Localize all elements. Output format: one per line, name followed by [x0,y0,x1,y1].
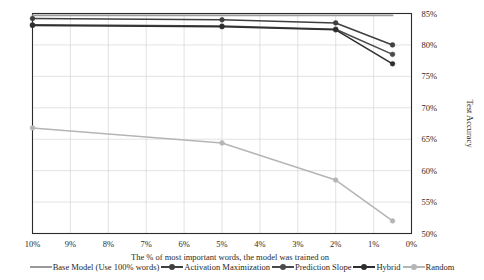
x-tick-labels: 10%9%8%7%6%5%4%3%2%1%0% [25,239,417,249]
x-tick-label: 2% [330,239,341,249]
y-tick-label: 85% [422,9,438,19]
data-point [333,27,338,32]
line-chart-svg: 10%9%8%7%6%5%4%3%2%1%0% 50%55%60%65%70%7… [0,0,484,280]
legend-label: Hybrid [376,262,400,272]
x-tick-label: 6% [178,239,189,249]
x-tick-label: 9% [65,239,76,249]
x-tick-label: 7% [141,239,152,249]
legend-item-1[interactable]: Base Model (Use 100% words) [30,262,160,272]
legend-label: Prediction Slope [295,262,351,272]
data-point [30,23,35,28]
x-tick-label: 10% [25,239,41,249]
series-line [33,25,393,55]
legend-swatch-icon [272,262,294,272]
y-tick-label: 50% [422,229,438,239]
series-5 [30,126,395,224]
data-point [390,43,395,48]
data-point [333,178,338,183]
legend-label: Base Model (Use 100% words) [53,262,160,272]
chart-legend: Base Model (Use 100% words)Activation Ma… [0,258,484,276]
legend-label: Activation Maximization [184,262,270,272]
x-tick-label: 5% [216,239,227,249]
data-point [30,16,35,21]
chart-container: 10%9%8%7%6%5%4%3%2%1%0% 50%55%60%65%70%7… [0,0,484,280]
legend-swatch-icon [403,262,425,272]
data-point [390,61,395,66]
series-line [33,128,393,221]
data-point [390,52,395,57]
legend-item-3[interactable]: Prediction Slope [272,262,351,272]
x-tick-label: 3% [292,239,303,249]
y-tick-label: 70% [422,103,438,113]
legend-item-5[interactable]: Random [403,262,455,272]
legend-item-4[interactable]: Hybrid [353,262,400,272]
legend-item-2[interactable]: Activation Maximization [161,262,270,272]
x-tick-label: 4% [254,239,265,249]
y-tick-label: 55% [422,197,438,207]
data-point [30,126,35,131]
x-gridlines [70,14,373,234]
y-tick-label: 60% [422,166,438,176]
x-tick-label: 8% [103,239,114,249]
y-tick-labels: 50%55%60%65%70%75%80%85% [422,9,438,239]
y-tick-label: 75% [422,71,438,81]
series-layer [30,15,395,223]
x-tick-label: 1% [368,239,379,249]
legend-swatch-icon [161,262,183,272]
y-axis-title: Test Accuracy [465,99,475,148]
legend-swatch-icon [353,262,375,272]
x-tick-label: 0% [406,239,417,249]
series-3 [30,22,395,56]
legend-swatch-icon [30,262,52,272]
data-point [220,24,225,29]
y-tick-label: 80% [422,40,438,50]
data-point [220,17,225,22]
data-point [220,141,225,146]
y-tick-label: 65% [422,134,438,144]
legend-label: Random [426,262,455,272]
data-point [390,219,395,224]
data-point [333,21,338,26]
